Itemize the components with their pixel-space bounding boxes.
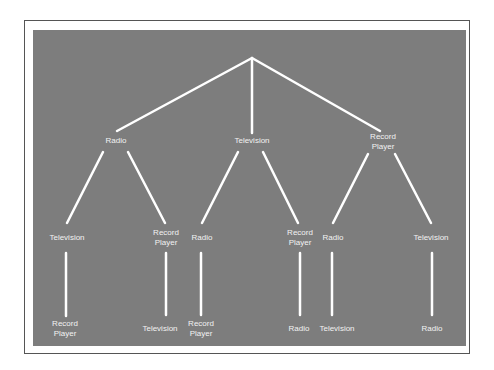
leaf-record-player-radio-television: Television bbox=[319, 324, 354, 334]
tree-edges bbox=[0, 0, 494, 370]
node-radio-record-player: Record Player bbox=[153, 228, 179, 248]
node-radio-television: Television bbox=[49, 233, 84, 243]
node-television-radio: Radio bbox=[192, 233, 213, 243]
node-radio: Radio bbox=[106, 136, 127, 146]
node-record-player-radio: Radio bbox=[323, 233, 344, 243]
leaf-television-radio-record-player: Record Player bbox=[188, 319, 214, 339]
leaf-radio-television-record-player: Record Player bbox=[52, 319, 78, 339]
leaf-television-record-player-radio: Radio bbox=[289, 324, 310, 334]
edge-root-radio bbox=[117, 58, 252, 131]
leaf-record-player-television-radio: Radio bbox=[422, 324, 443, 334]
node-television: Television bbox=[234, 136, 269, 146]
edge-root-record-player bbox=[252, 58, 380, 131]
node-television-record-player: Record Player bbox=[287, 228, 313, 248]
leaf-radio-record-player-television: Television bbox=[142, 324, 177, 334]
node-record-player-television: Television bbox=[413, 233, 448, 243]
node-record-player: Record Player bbox=[370, 132, 396, 152]
